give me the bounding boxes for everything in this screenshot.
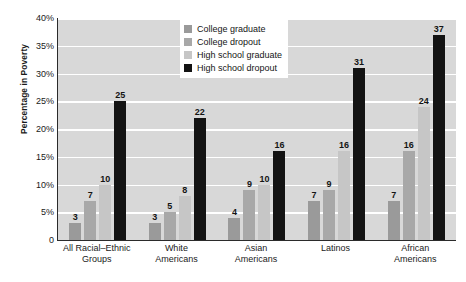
x-axis-tick-line: Americans bbox=[377, 254, 453, 265]
y-axis-tick: 40% bbox=[24, 13, 54, 23]
bar-slot: 3 bbox=[149, 18, 161, 240]
bar[interactable]: 3 bbox=[149, 223, 161, 240]
x-axis-tick: Latinos bbox=[298, 243, 374, 266]
bar-slot: 7 bbox=[388, 18, 400, 240]
x-axis-tick: AsianAmericans bbox=[218, 243, 294, 266]
legend-label: High school dropout bbox=[197, 63, 277, 73]
bar-value-label: 24 bbox=[419, 96, 429, 106]
x-axis-tick: All Racial–EthnicGroups bbox=[59, 243, 135, 266]
bar-value-label: 7 bbox=[312, 190, 317, 200]
bar-slot: 16 bbox=[338, 18, 350, 240]
bar-slot: 37 bbox=[433, 18, 445, 240]
x-axis-tick-line: Americans bbox=[139, 254, 215, 265]
bar-slot: 16 bbox=[403, 18, 415, 240]
bar-value-label: 9 bbox=[247, 179, 252, 189]
legend-label: College graduate bbox=[197, 24, 266, 34]
bar[interactable]: 9 bbox=[243, 190, 255, 240]
bar[interactable]: 24 bbox=[418, 107, 430, 240]
bar-value-label: 7 bbox=[391, 190, 396, 200]
bar[interactable]: 16 bbox=[403, 151, 415, 240]
legend-swatch bbox=[184, 64, 192, 72]
bar[interactable]: 8 bbox=[179, 196, 191, 240]
bar[interactable]: 31 bbox=[353, 68, 365, 240]
bar-group: 791631 bbox=[299, 18, 375, 240]
y-axis-tick: 25% bbox=[24, 96, 54, 106]
y-axis-tick: 5% bbox=[24, 207, 54, 217]
y-axis-tick: 20% bbox=[24, 124, 54, 134]
bar[interactable]: 7 bbox=[308, 201, 320, 240]
bar-value-label: 4 bbox=[232, 207, 237, 217]
legend-item[interactable]: College graduate bbox=[184, 23, 282, 35]
x-axis-tick-labels: All Racial–EthnicGroupsWhiteAmericansAsi… bbox=[57, 243, 455, 266]
bar-value-label: 3 bbox=[73, 212, 78, 222]
legend-swatch bbox=[184, 38, 192, 46]
legend-item[interactable]: High school graduate bbox=[184, 49, 282, 61]
x-axis-tick-line: All Racial–Ethnic bbox=[59, 243, 135, 254]
bar-group: 371025 bbox=[60, 18, 136, 240]
legend-swatch bbox=[184, 51, 192, 59]
bar-value-label: 3 bbox=[152, 212, 157, 222]
y-axis-tick: 30% bbox=[24, 69, 54, 79]
x-axis-tick-line: African bbox=[377, 243, 453, 254]
bar[interactable]: 10 bbox=[99, 185, 111, 241]
bar[interactable]: 10 bbox=[258, 185, 270, 241]
bar-value-label: 8 bbox=[182, 185, 187, 195]
y-axis-tick-labels: 40%35%30%25%20%15%10%5%0 bbox=[24, 18, 54, 240]
x-axis-tick-line: Latinos bbox=[298, 243, 374, 254]
x-axis-tick: AfricanAmericans bbox=[377, 243, 453, 266]
bar-value-label: 10 bbox=[259, 174, 269, 184]
bar-value-label: 25 bbox=[115, 90, 125, 100]
x-axis-tick: WhiteAmericans bbox=[139, 243, 215, 266]
bar-value-label: 31 bbox=[354, 57, 364, 67]
legend-label: College dropout bbox=[197, 37, 261, 47]
bar-slot: 3 bbox=[69, 18, 81, 240]
legend-label: High school graduate bbox=[197, 50, 282, 60]
legend-swatch bbox=[184, 25, 192, 33]
bar[interactable]: 4 bbox=[228, 218, 240, 240]
legend: College graduateCollege dropoutHigh scho… bbox=[180, 20, 288, 78]
bar[interactable]: 25 bbox=[114, 101, 126, 240]
bar-value-label: 5 bbox=[167, 201, 172, 211]
bar-slot: 9 bbox=[323, 18, 335, 240]
bar-value-label: 37 bbox=[434, 24, 444, 34]
legend-item[interactable]: High school dropout bbox=[184, 62, 282, 74]
bar-chart: Percentage in Poverty 40%35%30%25%20%15%… bbox=[0, 0, 466, 282]
x-axis-tick-line: White bbox=[139, 243, 215, 254]
bar-value-label: 16 bbox=[404, 140, 414, 150]
bar-slot: 7 bbox=[84, 18, 96, 240]
bar-value-label: 16 bbox=[339, 140, 349, 150]
y-axis-tick: 15% bbox=[24, 152, 54, 162]
bar-slot: 24 bbox=[418, 18, 430, 240]
bar-group: 7162437 bbox=[378, 18, 454, 240]
bar[interactable]: 16 bbox=[273, 151, 285, 240]
bar[interactable]: 5 bbox=[164, 212, 176, 240]
y-axis-tick: 10% bbox=[24, 180, 54, 190]
bar-slot: 25 bbox=[114, 18, 126, 240]
bar[interactable]: 9 bbox=[323, 190, 335, 240]
y-axis-tick: 0 bbox=[24, 235, 54, 245]
x-axis-tick-line: Asian bbox=[218, 243, 294, 254]
bar-value-label: 9 bbox=[327, 179, 332, 189]
bar-value-label: 7 bbox=[88, 190, 93, 200]
bar[interactable]: 3 bbox=[69, 223, 81, 240]
bar-value-label: 16 bbox=[274, 140, 284, 150]
bar[interactable]: 16 bbox=[338, 151, 350, 240]
bar-value-label: 22 bbox=[195, 107, 205, 117]
legend-item[interactable]: College dropout bbox=[184, 36, 282, 48]
y-axis-tick: 35% bbox=[24, 41, 54, 51]
bar[interactable]: 7 bbox=[84, 201, 96, 240]
bar[interactable]: 37 bbox=[433, 35, 445, 240]
bar-value-label: 10 bbox=[100, 174, 110, 184]
x-axis-tick-line: Americans bbox=[218, 254, 294, 265]
bar-slot: 10 bbox=[99, 18, 111, 240]
x-axis-tick-line: Groups bbox=[59, 254, 135, 265]
bar[interactable]: 7 bbox=[388, 201, 400, 240]
bar-slot: 31 bbox=[353, 18, 365, 240]
bar-slot: 7 bbox=[308, 18, 320, 240]
bar-slot: 5 bbox=[164, 18, 176, 240]
bar[interactable]: 22 bbox=[194, 118, 206, 240]
